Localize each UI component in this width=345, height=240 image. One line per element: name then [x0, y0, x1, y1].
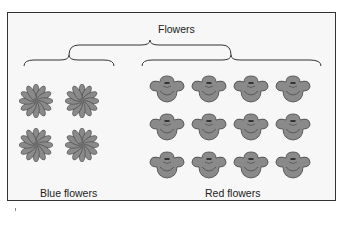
- blue-flower-icon: [65, 128, 99, 166]
- blue-flower-icon: [19, 128, 53, 166]
- red-flower-icon: [275, 112, 311, 146]
- blue-flower-icon: [19, 84, 53, 122]
- red-flower-icon: [149, 150, 185, 184]
- top-brace: [69, 40, 231, 55]
- red-flower-icon: [149, 112, 185, 146]
- blue-group-brace: [24, 55, 114, 66]
- red-flower-icon: [191, 150, 227, 184]
- red-flower-icon: [191, 112, 227, 146]
- red-flower-icon: [191, 74, 227, 108]
- red-flower-icon: [233, 150, 269, 184]
- red-flower-icon: [149, 74, 185, 108]
- red-flower-icon: [275, 74, 311, 108]
- red-group-brace: [142, 55, 321, 66]
- margin-mark: [15, 208, 16, 211]
- red-flower-icon: [233, 112, 269, 146]
- red-flowers-label: Red flowers: [205, 187, 260, 199]
- blue-flower-icon: [65, 84, 99, 122]
- red-flower-icon: [275, 150, 311, 184]
- blue-flowers-label: Blue flowers: [40, 187, 97, 199]
- red-flower-icon: [233, 74, 269, 108]
